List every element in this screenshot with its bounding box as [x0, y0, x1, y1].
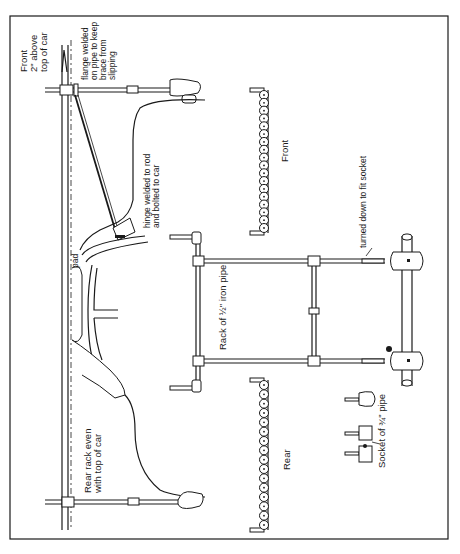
label-front-view: Front	[279, 139, 290, 162]
rod-holder-center	[263, 211, 265, 213]
rod-holder-center	[263, 118, 265, 120]
label-front-height-3: top of car	[38, 32, 49, 72]
rod-holder-center	[263, 440, 265, 442]
rod-holder-center	[263, 393, 265, 395]
label-rear-view: Rear	[281, 449, 292, 470]
socket-details	[345, 392, 380, 462]
rod-holder-center	[263, 477, 265, 479]
rod-holder-center	[263, 172, 265, 174]
rod-holder-center	[263, 125, 265, 127]
rod-holder-center	[263, 524, 265, 526]
rack-diagram: Front 2" above top of car flange welded …	[0, 0, 460, 554]
rod-holder-center	[263, 204, 265, 206]
rod-holder-center	[263, 468, 265, 470]
label-rack-material: Rack of ½" iron pipe	[217, 265, 228, 350]
rod-holder-center	[263, 227, 265, 229]
rod-holder-center	[263, 412, 265, 414]
front-rack-view	[250, 88, 269, 235]
rod-holder-center	[263, 149, 265, 151]
rod-holder-center	[263, 157, 265, 159]
rod-holder-center	[263, 180, 265, 182]
label-pad: pad	[70, 254, 80, 268]
rod-holder-center	[263, 459, 265, 461]
rear-rack-view	[250, 378, 269, 532]
rod-holder-center	[263, 505, 265, 507]
rod-holder-center	[263, 188, 265, 190]
rod-holder-center	[263, 196, 265, 198]
label-rear-rack-2: with top of car	[92, 434, 103, 494]
label-socket: Socket of ¾" pipe	[376, 394, 387, 468]
rod-holder-center	[263, 487, 265, 489]
rod-holder-center	[263, 165, 265, 167]
rod-holder-center	[263, 515, 265, 517]
rod-holder-center	[263, 133, 265, 135]
rod-holder-center	[263, 496, 265, 498]
receiver-bar	[391, 234, 424, 386]
label-flange-4: slipping	[107, 51, 117, 80]
rod-holder-center	[263, 431, 265, 433]
rod-holder-center	[263, 421, 265, 423]
rod-holder-center	[263, 110, 265, 112]
rod-holder-center	[263, 141, 265, 143]
label-hinge-2: and bolted to car	[151, 165, 161, 228]
car-side-view	[45, 40, 205, 530]
rod-holder-center	[263, 219, 265, 221]
label-turned-down: turned down to fit socket	[358, 155, 368, 248]
rod-holder-center	[263, 94, 265, 96]
rod-holder-center	[263, 403, 265, 405]
rod-holder-center	[263, 102, 265, 104]
rack-frame	[170, 232, 392, 392]
rod-holder-center	[263, 449, 265, 451]
rod-holder-center	[263, 384, 265, 386]
